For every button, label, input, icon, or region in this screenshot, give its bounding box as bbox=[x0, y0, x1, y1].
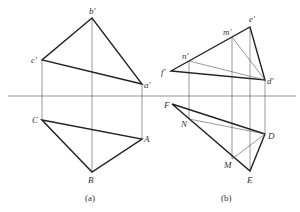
label-e-prime: e' bbox=[249, 14, 256, 24]
label-d-prime: d' bbox=[267, 76, 275, 86]
figure-b: e' m' n' f' d' F N D M E (b) bbox=[161, 14, 275, 203]
caption-a: (a) bbox=[85, 193, 95, 203]
label-E: E bbox=[246, 175, 253, 185]
line-n-prime-d-prime bbox=[189, 61, 265, 80]
figure-a: b' c' a' C A B (a) bbox=[31, 6, 152, 203]
label-n-prime: n' bbox=[182, 51, 190, 61]
label-M: M bbox=[223, 160, 232, 170]
label-f-prime: f' bbox=[161, 67, 167, 77]
label-A: A bbox=[143, 134, 150, 144]
triangle-top-view-b bbox=[172, 104, 265, 171]
label-m-prime: m' bbox=[223, 27, 232, 37]
label-c-prime: c' bbox=[31, 55, 38, 65]
line-m-prime-d-prime bbox=[232, 37, 265, 80]
label-B: B bbox=[88, 175, 94, 185]
label-F: F bbox=[163, 100, 170, 110]
label-N: N bbox=[180, 119, 188, 129]
label-b-prime: b' bbox=[89, 6, 97, 16]
label-C: C bbox=[32, 115, 39, 125]
projection-diagram: b' c' a' C A B (a) e' m' n' f' d' F N D … bbox=[0, 0, 300, 212]
label-D: D bbox=[267, 131, 275, 141]
label-a-prime: a' bbox=[144, 80, 152, 90]
caption-b: (b) bbox=[221, 193, 232, 203]
